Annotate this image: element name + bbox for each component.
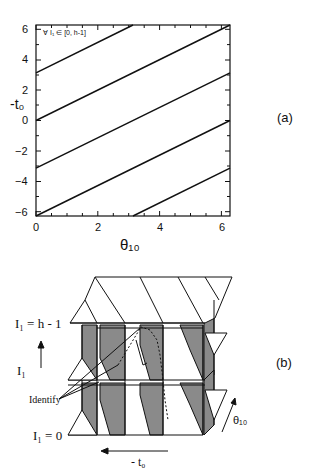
- xtick-0: 0: [33, 221, 39, 233]
- xtick-4: 4: [157, 221, 163, 233]
- ytick-neg6: −6: [15, 206, 28, 218]
- vertical-axis-label: I₁: [17, 363, 26, 379]
- plot-annotation: ∀ I₁ ∈ [0, h-1]: [43, 29, 86, 37]
- level-top-label: I₁ = h - 1: [15, 316, 62, 332]
- diagram-b: [38, 277, 236, 454]
- level-bottom-label: I₁ = 0: [33, 428, 62, 444]
- plot-a: [36, 25, 230, 216]
- panel-a-label: (a): [277, 110, 293, 125]
- x-axis-label: θ₁₀: [120, 236, 140, 253]
- ytick-4: 4: [22, 53, 28, 65]
- ytick-6: 6: [22, 23, 28, 35]
- panel-b-label: (b): [276, 355, 292, 370]
- xtick-6: 6: [219, 221, 225, 233]
- xtick-2: 2: [95, 221, 101, 233]
- depth-axis-label: θ₁₀: [233, 414, 247, 426]
- y-axis-label: -t₀: [10, 96, 24, 112]
- ytick-0: 0: [22, 114, 28, 126]
- horizontal-axis-label: - t₀: [131, 455, 146, 470]
- ytick-2: 2: [22, 84, 28, 96]
- identify-label: Identify: [29, 394, 61, 405]
- ytick-neg2: −2: [15, 145, 28, 157]
- ytick-neg4: −4: [15, 175, 28, 187]
